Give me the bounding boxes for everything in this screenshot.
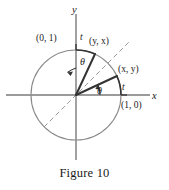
point-label-reflected: (y, x)	[89, 36, 109, 47]
point-label-terminal: (x, y)	[118, 64, 139, 75]
figure-caption: Figure 10	[0, 166, 169, 181]
y-axis-label: y	[71, 4, 77, 15]
arc-length-label-right: t	[122, 82, 125, 92]
point-label-right: (1, 0)	[121, 100, 142, 111]
unit-circle-diagram: (0, 1) (1, 0) (y, x) (x, y) θ θ t t x y	[0, 0, 169, 165]
theta-label-from-x-axis: θ	[97, 85, 102, 96]
figure-container: (0, 1) (1, 0) (y, x) (x, y) θ θ t t x y …	[0, 0, 169, 190]
x-axis-label: x	[151, 90, 157, 101]
arc-t-top	[76, 50, 95, 54]
radius-to-reflected-point	[76, 54, 95, 95]
point-label-top: (0, 1)	[36, 33, 57, 44]
arc-length-label-top: t	[80, 32, 83, 42]
theta-label-from-y-axis: θ	[80, 56, 85, 67]
arc-t-right	[117, 76, 121, 95]
axes-group	[6, 14, 150, 160]
